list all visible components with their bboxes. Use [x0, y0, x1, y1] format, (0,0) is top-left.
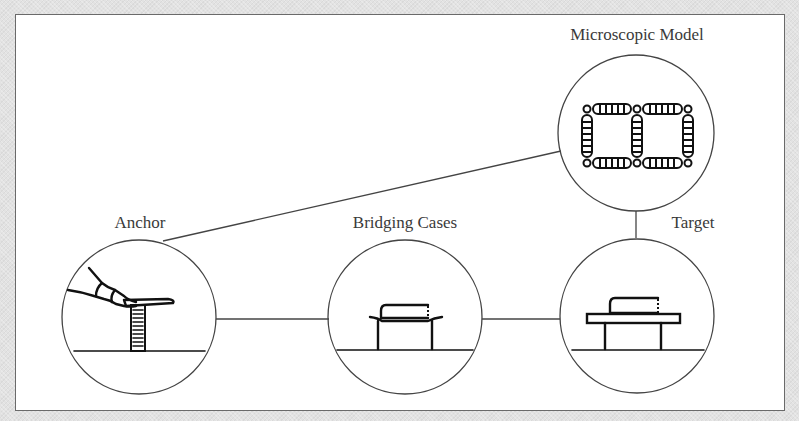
- target-label: Target: [672, 213, 715, 232]
- diagram-canvas: Anchor Bridging Cases Target Microscopic…: [0, 0, 799, 421]
- spring-icon: [131, 305, 145, 351]
- bridging-node: [328, 240, 482, 394]
- micro-node: [558, 55, 714, 211]
- anchor-label: Anchor: [115, 213, 166, 232]
- lattice-icon: [582, 104, 693, 168]
- book-icon: [381, 305, 428, 318]
- connectors: [163, 151, 636, 319]
- micro-label: Microscopic Model: [570, 25, 704, 44]
- table-top-icon: [587, 314, 680, 323]
- book-icon: [610, 298, 658, 313]
- target-node: [560, 239, 714, 393]
- anchor-node: [62, 240, 216, 394]
- bridging-label: Bridging Cases: [353, 213, 457, 232]
